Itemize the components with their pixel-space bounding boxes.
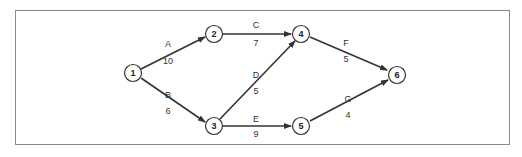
- svg-text:D: D: [253, 70, 260, 80]
- svg-text:4: 4: [298, 29, 303, 39]
- svg-text:5: 5: [253, 86, 258, 96]
- svg-text:B: B: [165, 90, 171, 100]
- svg-text:E: E: [253, 114, 259, 124]
- node-1: 1: [125, 65, 142, 82]
- svg-text:G: G: [344, 94, 351, 104]
- node-4: 4: [293, 26, 310, 43]
- svg-text:5: 5: [298, 121, 303, 131]
- edge-G: G 4: [310, 80, 388, 121]
- svg-text:6: 6: [394, 70, 399, 80]
- edge-B: B 6: [141, 78, 205, 122]
- svg-text:9: 9: [253, 129, 258, 139]
- svg-text:10: 10: [163, 56, 173, 66]
- edge-F: F 5: [310, 37, 387, 70]
- svg-text:A: A: [165, 39, 171, 49]
- edge-A: A 10: [141, 37, 205, 69]
- edge-C: C 7: [223, 20, 291, 48]
- network-diagram: A 10 B 6 C 7 D 5 E 9 F 5 G 4 1 2: [0, 0, 522, 157]
- node-6: 6: [389, 67, 406, 84]
- svg-text:F: F: [343, 38, 349, 48]
- svg-text:C: C: [253, 20, 260, 30]
- svg-text:5: 5: [343, 54, 348, 64]
- edge-E: E 9: [223, 114, 291, 139]
- svg-text:2: 2: [211, 29, 216, 39]
- node-5: 5: [293, 118, 310, 135]
- svg-text:3: 3: [211, 121, 216, 131]
- svg-text:7: 7: [253, 38, 258, 48]
- svg-text:6: 6: [165, 106, 170, 116]
- node-3: 3: [206, 118, 223, 135]
- svg-text:4: 4: [345, 110, 350, 120]
- node-2: 2: [206, 26, 223, 43]
- edge-D: D 5: [220, 41, 295, 119]
- svg-text:1: 1: [130, 68, 135, 78]
